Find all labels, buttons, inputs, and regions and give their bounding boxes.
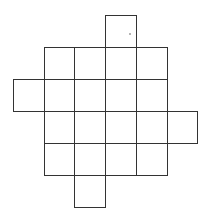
grid-cell-r3-c3 [106,112,137,144]
grid-cell-r3-c4 [137,112,168,144]
grid-cell-r2-c2 [75,80,106,112]
grid-cell-r3-c2 [75,112,106,144]
grid-cell-r4-c1 [45,144,75,176]
grid-cell-r2-c4 [137,80,168,112]
square-grid-diagram [0,0,209,218]
grid-cell-r5-c2 [75,176,106,208]
grid-cell-r2-c1 [45,80,75,112]
grid-cell-r4-c3 [106,144,137,176]
grid-cell-r3-c1 [45,112,75,144]
grid-cell-r4-c4 [137,144,168,176]
grid-cell-r0-c3 [106,16,137,48]
grid-cell-r4-c2 [75,144,106,176]
grid-cell-r2-c3 [106,80,137,112]
grid-cell-r1-c4 [137,48,168,80]
grid-cells [14,16,198,208]
dot-mark [129,33,131,35]
grid-cell-r1-c2 [75,48,106,80]
grid-cell-r1-c1 [45,48,75,80]
grid-marks [129,33,131,35]
grid-cell-r2-c0 [14,80,45,112]
grid-cell-r1-c3 [106,48,137,80]
grid-cell-r3-c5 [168,112,198,144]
